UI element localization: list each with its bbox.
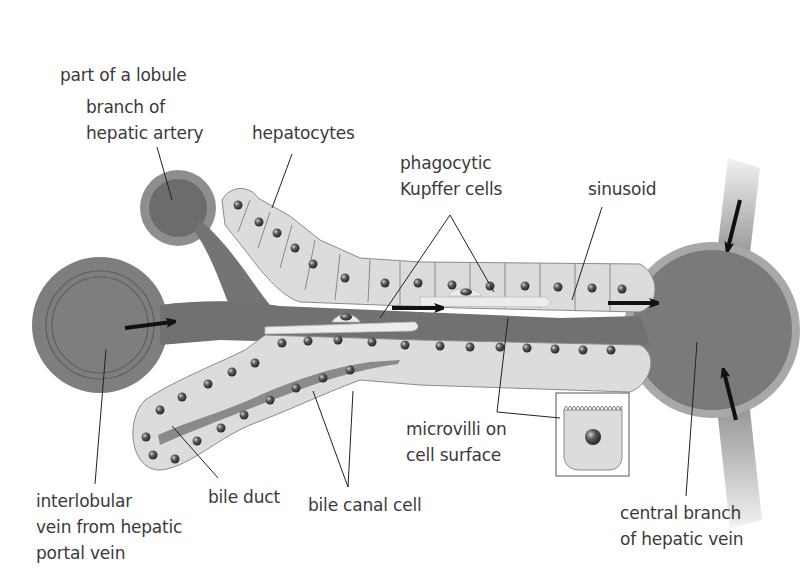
label-bile-canal-cell: bile canal cell (308, 492, 421, 518)
label-line: central branch (620, 500, 743, 526)
label-sinusoid: sinusoid (588, 176, 656, 202)
label-line: phagocytic (400, 150, 502, 176)
label-line: vein from hepatic (36, 514, 182, 540)
label-central-vein: central branch of hepatic vein (620, 500, 743, 552)
liver-lobule-diagram: part of a lobule branch of hepatic arter… (0, 0, 806, 578)
label-hepatocytes: hepatocytes (252, 120, 355, 146)
label-line: microvilli on (406, 416, 507, 442)
label-line: bile duct (208, 484, 280, 510)
label-interlobular-vein: interlobular vein from hepatic portal ve… (36, 488, 182, 566)
label-line: portal vein (36, 540, 182, 566)
label-line: of hepatic vein (620, 526, 743, 552)
label-line: interlobular (36, 488, 182, 514)
upper-hepatocyte-row (222, 188, 655, 312)
label-line: sinusoid (588, 176, 656, 202)
label-line: hepatocytes (252, 120, 355, 146)
label-bile-duct: bile duct (208, 484, 280, 510)
label-kupffer-cells: phagocytic Kupffer cells (400, 150, 502, 202)
title-text: part of a lobule (60, 62, 187, 88)
label-line: Kupffer cells (400, 176, 502, 202)
label-line: bile canal cell (308, 492, 421, 518)
label-line: branch of (86, 94, 203, 120)
microvilli-inset (556, 393, 629, 476)
central-vein (624, 242, 800, 418)
label-microvilli: microvilli on cell surface (406, 416, 507, 468)
label-hepatic-artery: branch of hepatic artery (86, 94, 203, 146)
label-line: cell surface (406, 442, 507, 468)
diagram-title: part of a lobule (60, 62, 187, 88)
label-line: hepatic artery (86, 120, 203, 146)
